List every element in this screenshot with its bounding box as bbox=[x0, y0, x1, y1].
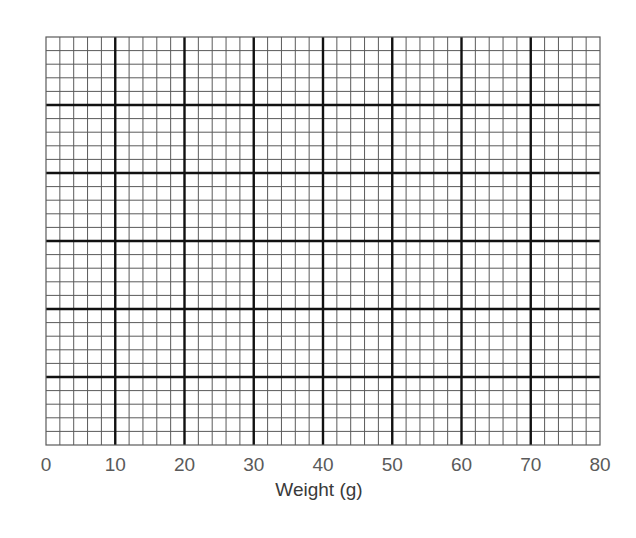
x-tick-label: 60 bbox=[451, 454, 472, 476]
x-tick-label: 40 bbox=[312, 454, 333, 476]
x-axis-title: Weight (g) bbox=[275, 479, 362, 501]
x-tick-label: 50 bbox=[382, 454, 403, 476]
x-tick-label: 70 bbox=[520, 454, 541, 476]
x-tick-label: 0 bbox=[41, 454, 52, 476]
graph-paper-chart: 01020304050607080 Weight (g) bbox=[0, 0, 636, 538]
x-tick-label: 80 bbox=[589, 454, 610, 476]
x-tick-label: 30 bbox=[243, 454, 264, 476]
x-tick-label: 20 bbox=[174, 454, 195, 476]
x-tick-label: 10 bbox=[105, 454, 126, 476]
